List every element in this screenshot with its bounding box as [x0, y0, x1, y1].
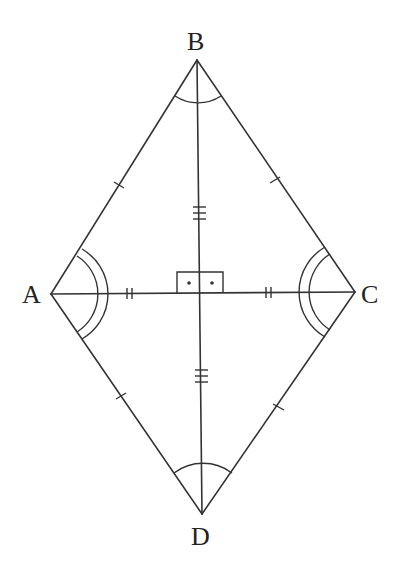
- side-cd: [202, 292, 355, 514]
- side-da: [51, 294, 202, 514]
- vertex-label-c: C: [361, 280, 378, 309]
- diagonal-bd: [197, 60, 202, 514]
- vertex-label-a: A: [22, 280, 41, 309]
- rhombus-diagram: B A C D: [0, 0, 399, 573]
- side-ab: [51, 60, 197, 294]
- vertex-label-d: D: [191, 522, 210, 551]
- angle-arc-d: [174, 463, 232, 473]
- vertex-label-b: B: [187, 27, 204, 56]
- side-bc: [197, 60, 355, 292]
